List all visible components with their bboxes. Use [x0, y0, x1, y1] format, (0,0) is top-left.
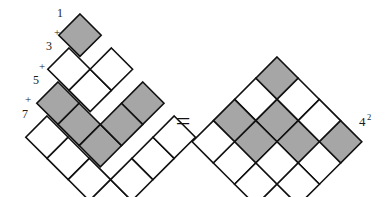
result-base: 4: [359, 114, 366, 129]
odd-sum-square-diagram: 1 + 3 + 5 + 7 =: [0, 0, 386, 197]
label-term-3: 3: [46, 39, 52, 53]
result-exponent: 2: [367, 112, 371, 122]
plus-sign-1: +: [54, 26, 60, 38]
plus-sign-3: +: [25, 93, 31, 105]
plus-sign-2: +: [39, 60, 45, 72]
left-figure-nested-gnomons: 1 + 3 + 5 + 7: [22, 6, 195, 197]
label-term-7: 7: [22, 107, 28, 121]
equals-sign: =: [176, 107, 191, 136]
figure-root: 1 + 3 + 5 + 7 =: [0, 0, 386, 197]
label-term-1: 1: [57, 6, 63, 20]
gnomon-1: [59, 14, 101, 56]
right-figure-square-grid: 4 2: [192, 57, 371, 197]
gnomon-cell: [59, 14, 101, 56]
label-term-5: 5: [33, 73, 39, 87]
